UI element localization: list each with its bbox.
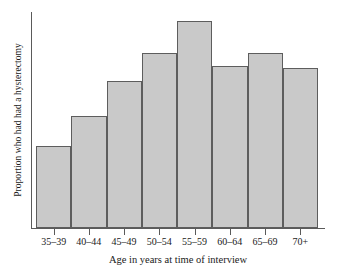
bars-group	[36, 12, 318, 228]
y-axis-line	[31, 12, 32, 228]
y-axis-title: Proportion who had had a hysterectomy	[10, 12, 26, 228]
x-axis-title: Age in years at time of interview	[31, 252, 325, 268]
bar	[248, 53, 283, 228]
bar	[71, 116, 106, 228]
bar	[212, 66, 247, 228]
bar	[36, 146, 71, 228]
x-axis-tick-labels: 35–3940–4445–4950–5455–5960–6465–6970+	[36, 235, 318, 249]
plot-area	[31, 12, 325, 228]
bar	[107, 81, 142, 228]
x-axis-tick-label: 70+	[277, 235, 323, 249]
bar	[283, 68, 318, 228]
bar-chart-figure: Proportion who had had a hysterectomy 35…	[0, 0, 339, 278]
bar	[177, 21, 212, 228]
bar	[142, 53, 177, 228]
